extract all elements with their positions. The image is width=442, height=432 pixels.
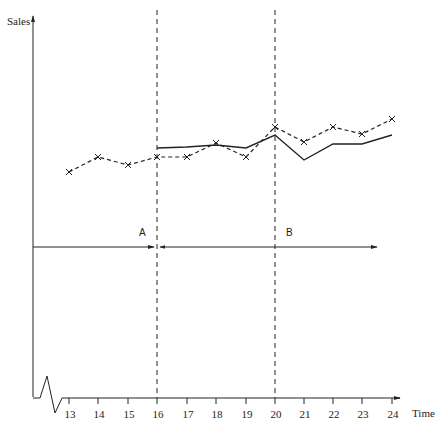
x-tick-label: 18 <box>212 408 223 420</box>
y-axis-label: Sales <box>7 15 30 27</box>
x-axis-ticks <box>69 398 392 404</box>
sales-time-chart <box>0 0 442 432</box>
x-tick-label: 15 <box>124 408 135 420</box>
x-tick-label: 14 <box>94 408 105 420</box>
x-tick-label: 22 <box>329 408 340 420</box>
x-tick-label: 16 <box>153 408 164 420</box>
x-tick-label: 13 <box>65 408 76 420</box>
series-forecast-markers <box>66 116 395 175</box>
period-a-label: A <box>139 227 146 238</box>
vertical-dashed-markers <box>157 10 275 398</box>
x-tick-label: 21 <box>300 408 311 420</box>
period-b-label: B <box>286 227 293 238</box>
x-axis-label: Time <box>412 407 435 419</box>
series-forecast-dashed <box>69 119 392 172</box>
x-tick-label: 19 <box>242 408 253 420</box>
x-tick-label: 20 <box>271 408 282 420</box>
x-tick-label: 24 <box>388 408 399 420</box>
x-tick-label: 23 <box>358 408 369 420</box>
x-tick-label: 17 <box>183 408 194 420</box>
